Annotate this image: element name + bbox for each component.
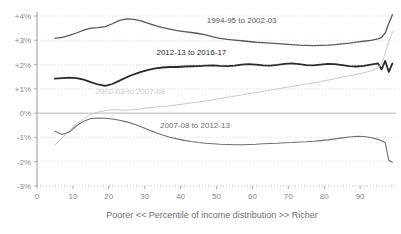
- y-axis: [34, 12, 37, 186]
- series-label-4: 2007-08 to 2012-13: [160, 121, 230, 130]
- y-tick-label: -1%: [17, 133, 31, 142]
- y-tick-label: -2%: [17, 158, 31, 167]
- y-tick-labels: -3%-2%-1%0%+1%+2%+3%+4%: [15, 12, 31, 191]
- y-tick-label: +4%: [15, 12, 31, 21]
- y-tick-label: 0%: [19, 109, 31, 118]
- grid-lines: [37, 16, 396, 186]
- x-tick-label: 30: [140, 192, 149, 201]
- series-label-2: 2012-13 to 2016-17: [156, 48, 226, 57]
- y-tick-label: -3%: [17, 182, 31, 191]
- x-axis: [37, 186, 360, 189]
- chart-container: -3%-2%-1%0%+1%+2%+3%+4% 0102030405060708…: [0, 0, 401, 234]
- y-tick-label: +3%: [15, 36, 31, 45]
- line-chart: -3%-2%-1%0%+1%+2%+3%+4% 0102030405060708…: [0, 0, 401, 234]
- x-tick-labels: 0102030405060708090: [35, 192, 365, 201]
- x-tick-label: 0: [35, 192, 40, 201]
- x-tick-label: 80: [320, 192, 329, 201]
- series-label-3: 2002-03 to 2007-08: [95, 87, 165, 96]
- y-tick-label: +2%: [15, 61, 31, 70]
- x-tick-label: 60: [248, 192, 257, 201]
- x-axis-title: Poorer << Percentile of income distribut…: [106, 210, 318, 220]
- y-tick-label: +1%: [15, 85, 31, 94]
- x-tick-label: 20: [104, 192, 113, 201]
- x-tick-label: 50: [212, 192, 221, 201]
- series-label-1: 1994-95 to 2002-03: [207, 16, 277, 25]
- x-tick-label: 40: [176, 192, 185, 201]
- x-tick-label: 10: [68, 192, 77, 201]
- x-tick-label: 90: [356, 192, 365, 201]
- x-tick-label: 70: [284, 192, 293, 201]
